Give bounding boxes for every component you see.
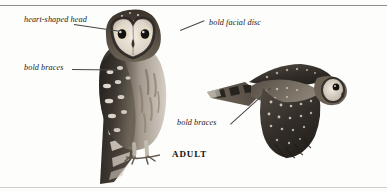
flying-owl-illustration (205, 58, 360, 163)
label-bold-braces-flight: bold braces (177, 118, 217, 128)
figure-caption-adult: ADULT (172, 149, 207, 159)
label-heart-shaped-head: heart-shaped head (24, 15, 94, 25)
label-bold-braces-perched: bold braces (24, 63, 64, 73)
divider-top (0, 5, 387, 6)
label-bold-facial-disc: bold facial disc (209, 18, 261, 28)
divider-bottom (0, 187, 387, 188)
perched-owl-illustration (60, 6, 190, 188)
field-guide-plate: heart-shaped head bold braces bold facia… (0, 0, 387, 193)
